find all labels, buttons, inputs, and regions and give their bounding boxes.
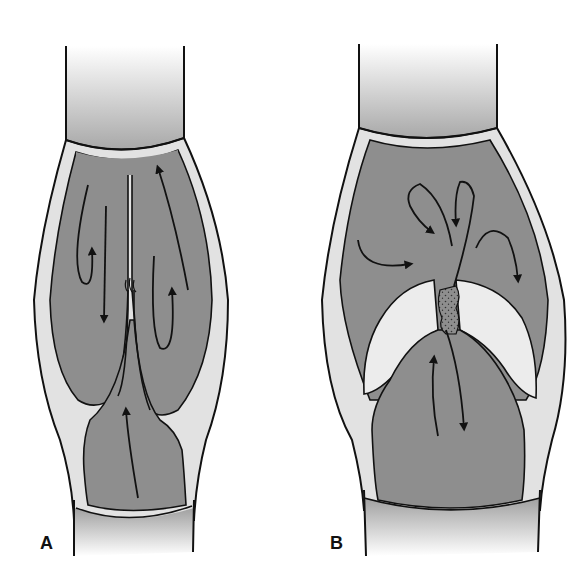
panel-label-b: B	[330, 533, 343, 554]
panel-label-a: A	[40, 533, 53, 554]
valve-defect	[438, 286, 459, 334]
upper-vessel-segment	[359, 44, 497, 138]
venous-valve-figure: A B	[0, 0, 577, 580]
diagram-canvas	[0, 0, 577, 580]
upper-vessel-segment	[66, 46, 184, 150]
panel-b	[322, 44, 566, 556]
panel-a	[34, 46, 228, 556]
